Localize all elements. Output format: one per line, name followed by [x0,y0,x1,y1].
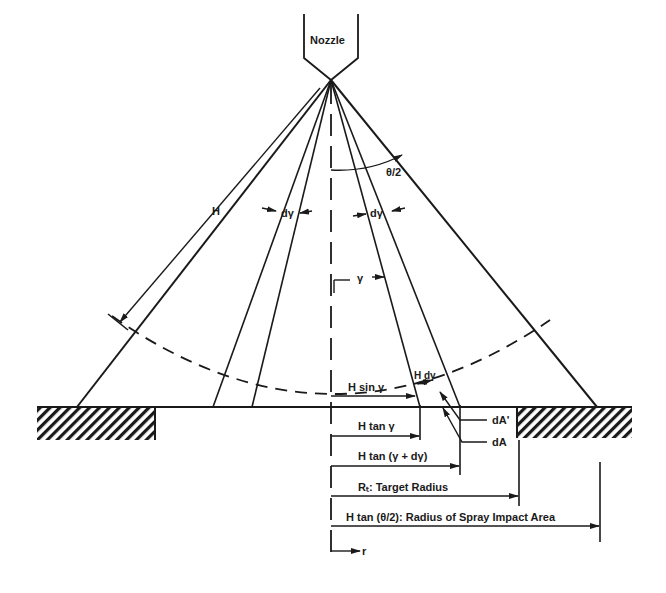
target-radius-label: Rₜ: Target Radius [358,481,448,493]
spray-radius-label: H tan (θ/2): Radius of Spray Impact Area [346,511,556,523]
gamma-label: γ [357,272,364,284]
ground-hatch-right [517,408,632,438]
H-tan-gamma-label: H tan γ [358,420,396,432]
nozzle-label: Nozzle [310,34,345,46]
d-gamma-left-label: dγ [281,207,295,219]
nozzle [304,14,358,80]
H-dimension-line [120,88,320,322]
d-gamma-right-label: dγ [370,207,384,219]
spray-edge-right [331,80,597,407]
H-label: H [212,205,220,217]
ray-right-1 [331,80,420,407]
spray-geometry-diagram: Nozzle H θ/2 dγ dγ γ H dγ H sin γ dA' dA… [0,0,666,593]
dA-label: dA [492,436,507,448]
H-tan-gamma-dgamma-label: H tan (γ + dγ) [358,450,428,462]
H-sin-gamma-label: H sin γ [348,381,385,393]
dA-prime-label: dA' [492,414,510,426]
ray-left-1 [213,80,331,407]
half-angle-label: θ/2 [386,166,401,178]
ray-left-2 [252,80,331,407]
H-d-gamma-label: H dγ [414,370,436,381]
ray-right-2 [331,80,460,407]
r-label: r [362,545,367,557]
ground-hatch-left [37,408,155,440]
spray-edge-left [77,80,331,407]
